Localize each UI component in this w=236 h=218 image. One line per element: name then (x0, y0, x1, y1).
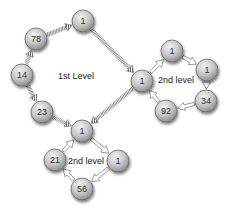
level-label-first-level: 1st Level (58, 71, 94, 81)
edge-n21-to-n1hubB (62, 140, 74, 153)
level-label-second-level-bottom: 2nd level (68, 156, 104, 166)
edge-n1rt-to-n1rr (182, 55, 197, 64)
node-value-label: 1 (115, 156, 120, 166)
edge-n56-to-n21 (63, 169, 75, 182)
node-value-label: 21 (50, 155, 60, 165)
edge-n34-to-n92 (178, 102, 195, 110)
edge-n1hubB-to-n1br (90, 138, 109, 154)
node-value-label: 1 (139, 76, 144, 86)
node-value-label: 1 (169, 46, 174, 56)
node-value-label: 92 (161, 106, 171, 116)
node-n1hubB: 1 (71, 120, 93, 142)
edge-n1top-to-n1hubR (90, 29, 134, 73)
edge-n1hubR-to-n1rt (149, 60, 163, 74)
edge-n23-to-n1hubB (52, 116, 71, 127)
node-n1hubR: 1 (131, 70, 153, 92)
node-n14: 14 (11, 64, 33, 86)
node-value-label: 23 (37, 107, 47, 117)
node-value-label: 56 (77, 184, 87, 194)
node-n92: 92 (155, 100, 177, 122)
node-n1rr: 1 (196, 59, 218, 81)
node-n1br: 1 (107, 150, 129, 172)
node-value-label: 34 (201, 96, 211, 106)
edge-n1br-to-n56 (92, 167, 110, 182)
level-label-second-level-right: 2nd level (158, 75, 194, 85)
node-n34: 34 (195, 90, 217, 112)
node-n1rt: 1 (161, 40, 183, 62)
node-n56: 56 (71, 178, 93, 200)
edge-n78-to-n1top (48, 24, 72, 37)
node-value-label: 78 (31, 34, 41, 44)
ring-network-diagram: 78111231411349215621 1st Level2nd level2… (0, 0, 236, 218)
node-n23: 23 (31, 101, 53, 123)
node-value-label: 1 (80, 16, 85, 26)
node-n1top: 1 (72, 10, 94, 32)
node-value-label: 14 (17, 70, 27, 80)
edge-n14-to-n23 (26, 86, 37, 102)
edge-n92-to-n1hubR (150, 90, 160, 102)
node-n78: 78 (25, 28, 47, 50)
edge-n1hubR-to-n1hubB (91, 87, 133, 123)
node-n21: 21 (44, 149, 66, 171)
edge-n14-to-n78 (25, 50, 33, 64)
edge-n1rr-to-n34 (202, 82, 210, 89)
node-value-label: 1 (204, 65, 209, 75)
node-value-label: 1 (79, 126, 84, 136)
